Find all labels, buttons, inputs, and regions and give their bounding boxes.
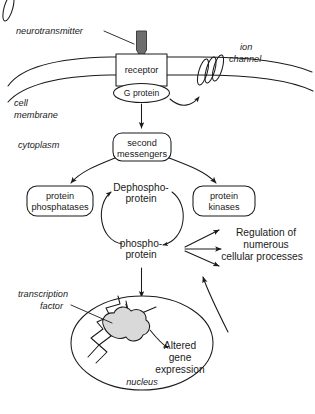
second-messengers-label-line1: second	[127, 138, 157, 148]
ion-channel-helix-3b	[210, 54, 226, 82]
altered-gene-label-line3: expression	[155, 364, 204, 375]
ion-channel-label-line1: ion	[240, 42, 252, 52]
ion-channel-helix-3	[1, 0, 17, 22]
regulation-label-line3: cellular processes	[221, 251, 303, 262]
protein-phosphatases-label-line2: phosphatases	[31, 202, 89, 212]
dephospho-to-phospho-arrow	[163, 192, 183, 245]
phospho-to-regulation-arrow-top	[185, 230, 219, 247]
dephospho-protein-label-line1: Dephospho-	[113, 182, 169, 193]
nucleus-label: nucleus	[126, 377, 158, 387]
cell-membrane-label-line1: cell	[14, 98, 29, 108]
phospho-to-dephospho-arrow	[101, 192, 122, 244]
neurotransmitter-leader-line	[104, 31, 134, 44]
phospho-protein-label-line1: phospho-	[120, 238, 162, 249]
receptor-label: receptor	[125, 65, 159, 75]
phospho-to-regulation-arrow-bottom	[185, 251, 219, 266]
protein-kinases-label-line1: protein	[210, 191, 238, 201]
protein-phosphatases-label-line1: protein	[46, 191, 74, 201]
g-protein-to-ion-channel-arrow	[170, 97, 199, 105]
ion-channel-label-line2: channel	[229, 54, 262, 64]
regulation-label-line2: numerous	[243, 239, 288, 250]
second-messengers-to-phosphatases-arrow	[71, 158, 115, 183]
phospho-protein-label-line2: protein	[125, 249, 156, 260]
g-protein-label: G protein	[124, 88, 160, 98]
diagram-canvas: neurotransmitter ion channel receptor G …	[0, 0, 315, 414]
transcription-factor-label-line2: factor	[40, 301, 64, 311]
ion-channel	[1, 0, 226, 86]
neurotransmitter-label: neurotransmitter	[16, 26, 84, 36]
signal-transduction-diagram: neurotransmitter ion channel receptor G …	[0, 0, 315, 414]
cytoplasm-label: cytoplasm	[18, 140, 60, 150]
altered-gene-label-line2: gene	[169, 352, 192, 363]
second-messengers-label-line2: messengers	[117, 149, 167, 159]
transcription-factor-label-line1: transcription	[18, 289, 68, 299]
second-messengers-to-kinases-arrow	[169, 158, 216, 183]
regulation-label-line1: Regulation of	[236, 227, 296, 238]
dephospho-protein-label-line2: protein	[125, 193, 156, 204]
protein-kinases-label-line2: kinases	[208, 202, 240, 212]
cell-membrane-label-line2: membrane	[14, 110, 58, 120]
altered-gene-label-line1: Altered	[164, 340, 197, 351]
